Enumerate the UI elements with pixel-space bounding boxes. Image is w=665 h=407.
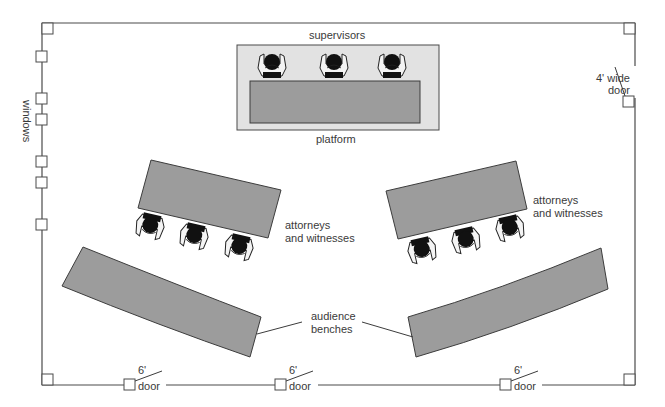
supervisors-table bbox=[250, 81, 420, 123]
right-attorneys-label-line1: attorneys bbox=[533, 194, 579, 206]
right-audience-bench bbox=[408, 248, 608, 357]
bottom-door-1: 6' door bbox=[124, 364, 162, 392]
audience-leader-left bbox=[257, 322, 302, 334]
courtroom-floor-plan: windows 4' wide door 6' door 6' door 6' … bbox=[0, 0, 665, 407]
supervisors-label: supervisors bbox=[309, 29, 366, 41]
bottom-door-3: 6' door bbox=[500, 364, 538, 392]
bottom-door-3-size: 6' bbox=[514, 364, 522, 376]
right-attorneys-label-line2: and witnesses bbox=[533, 207, 603, 219]
right-door-label-line2: door bbox=[608, 84, 630, 96]
bottom-door-1-label: door bbox=[138, 380, 160, 392]
bottom-door-2-label: door bbox=[289, 380, 311, 392]
left-attorneys-label-line1: attorneys bbox=[285, 219, 331, 231]
bottom-door-1-size: 6' bbox=[138, 364, 146, 376]
bottom-door-2-size: 6' bbox=[289, 364, 297, 376]
supervisor-people bbox=[258, 54, 406, 78]
left-audience-bench bbox=[62, 247, 261, 357]
right-door-label-line1: 4' wide bbox=[596, 72, 630, 84]
bottom-door-2: 6' door bbox=[275, 364, 313, 392]
audience-label-line1: audience bbox=[311, 310, 356, 322]
windows-label: windows bbox=[21, 99, 33, 143]
audience-label-line2: benches bbox=[311, 323, 353, 335]
audience-leader-right bbox=[362, 322, 413, 337]
platform-label: platform bbox=[316, 133, 356, 145]
left-attorneys-label-line2: and witnesses bbox=[285, 232, 355, 244]
bottom-door-3-label: door bbox=[514, 380, 536, 392]
